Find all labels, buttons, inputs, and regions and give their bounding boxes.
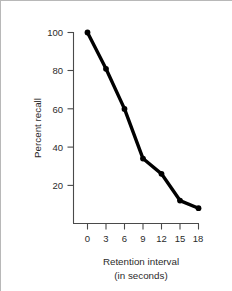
data-point (159, 171, 165, 177)
y-tick-label-60: 60 (52, 104, 63, 115)
x-tick-label-0: 0 (85, 233, 90, 244)
y-tick-label-80: 80 (52, 65, 63, 76)
y-axis-tick-labels: 100 80 60 40 20 (47, 27, 63, 191)
data-point (177, 198, 183, 204)
y-tick-label-20: 20 (52, 180, 63, 191)
data-point (85, 30, 91, 36)
x-axis-tick-labels: 0 3 6 9 12 15 18 (85, 233, 203, 244)
line-chart: 100 80 60 40 20 0 3 6 9 (1, 1, 232, 291)
y-axis-ticks (68, 33, 74, 186)
y-axis-title: Percent recall (32, 98, 43, 158)
data-series-line (88, 33, 199, 209)
x-axis-ticks (88, 224, 199, 230)
x-tick-label-15: 15 (175, 233, 186, 244)
x-tick-label-3: 3 (103, 233, 108, 244)
x-axis-subtitle: (in seconds) (114, 270, 167, 281)
x-tick-label-12: 12 (156, 233, 167, 244)
x-axis-title: Retention interval (103, 256, 179, 267)
data-point (103, 66, 109, 72)
data-point (196, 205, 202, 211)
plot-svg: 100 80 60 40 20 0 3 6 9 (1, 1, 232, 291)
y-tick-label-40: 40 (52, 142, 63, 153)
y-tick-label-100: 100 (47, 27, 63, 38)
figure-frame: 100 80 60 40 20 0 3 6 9 (0, 0, 232, 291)
data-point (122, 106, 128, 112)
x-tick-label-6: 6 (122, 233, 127, 244)
data-point (140, 156, 146, 162)
data-point-markers (85, 30, 202, 212)
x-tick-label-18: 18 (193, 233, 204, 244)
x-tick-label-9: 9 (140, 233, 145, 244)
